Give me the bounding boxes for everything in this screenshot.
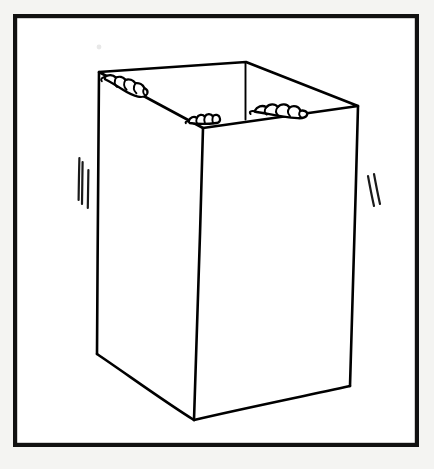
- motion-line-left-1: [79, 158, 80, 200]
- motion-line-left-3: [88, 170, 89, 208]
- box-face-right: [194, 106, 358, 420]
- illustration-stage: Hands gripping the rim of a tall open ca…: [0, 0, 434, 469]
- paper-speck: [97, 45, 102, 50]
- motion-line-left-2: [82, 162, 83, 204]
- hand-center-finger-3: [212, 116, 213, 123]
- line-drawing-canvas: [0, 0, 434, 469]
- hand-center-finger-2: [204, 117, 205, 124]
- hand-center-finger-1: [196, 118, 197, 123]
- open-box: [97, 62, 358, 420]
